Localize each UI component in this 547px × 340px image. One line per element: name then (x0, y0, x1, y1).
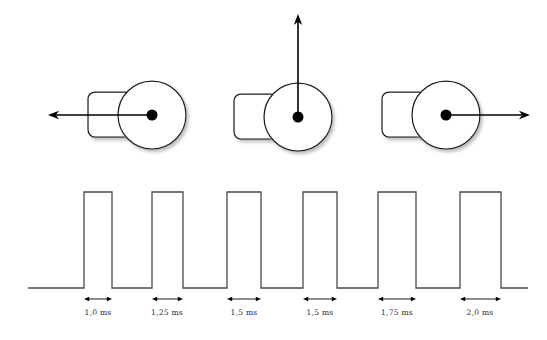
pulse-width-label: 1,25 ms (151, 308, 183, 317)
figure-background (0, 0, 547, 340)
servo-hub (293, 112, 304, 123)
pulse-width-label: 1,5 ms (231, 308, 258, 317)
servo-pulse-width-figure: 1,0 ms1,25 ms1,5 ms1,5 ms1,75 ms2,0 ms (0, 0, 547, 340)
servo-hub (441, 110, 452, 121)
pulse-width-label: 2,0 ms (467, 308, 494, 317)
pulse-width-label: 1,75 ms (381, 308, 413, 317)
figure-canvas: 1,0 ms1,25 ms1,5 ms1,5 ms1,75 ms2,0 ms (0, 0, 547, 340)
pulse-width-label: 1,0 ms (85, 308, 112, 317)
servo-hub (147, 110, 158, 121)
pulse-width-label: 1,5 ms (307, 308, 334, 317)
